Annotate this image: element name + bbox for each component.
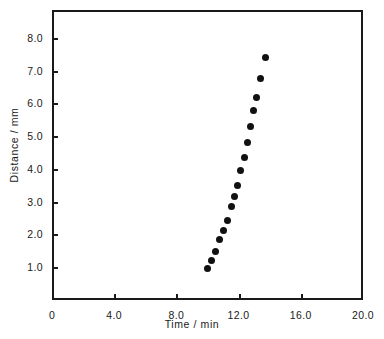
y-tick-label: 4.0 (27, 163, 43, 175)
data-point (216, 236, 223, 243)
y-axis-title: Distance / mm (2, 0, 26, 290)
y-tick-label: 7.0 (27, 65, 43, 77)
y-tick-mark (52, 169, 58, 171)
y-tick-mark (52, 103, 58, 105)
data-point (224, 217, 231, 224)
data-point (204, 265, 211, 272)
y-tick-mark (52, 202, 58, 204)
data-point (247, 123, 254, 130)
y-tick-label: 6.0 (27, 97, 43, 109)
data-point (234, 182, 241, 189)
y-tick-label: 8.0 (27, 32, 43, 44)
x-axis-title: Time / min (0, 318, 384, 330)
scatter-chart-figure: 1.02.03.04.05.06.07.08.0 04.08.012.016.0… (0, 0, 384, 339)
y-tick-label: 2.0 (27, 228, 43, 240)
data-point (220, 227, 227, 234)
x-tick-mark (301, 294, 303, 300)
data-point (244, 139, 251, 146)
y-tick-mark (52, 71, 58, 73)
y-tick-label: 1.0 (27, 261, 43, 273)
y-tick-mark (52, 267, 58, 269)
data-point (257, 75, 264, 82)
data-point (241, 154, 248, 161)
plot-area: 1.02.03.04.05.06.07.08.0 04.08.012.016.0… (52, 10, 363, 300)
y-tick-label: 3.0 (27, 196, 43, 208)
y-tick-mark (52, 234, 58, 236)
x-tick-mark (239, 294, 241, 300)
data-point (228, 203, 235, 210)
y-tick-mark (52, 38, 58, 40)
data-point (212, 248, 219, 255)
data-point (250, 107, 257, 114)
data-point (231, 193, 238, 200)
y-axis-title-text: Distance / mm (8, 108, 20, 183)
data-point (253, 94, 260, 101)
y-tick-label: 5.0 (27, 130, 43, 142)
data-point (262, 54, 269, 61)
y-tick-mark (52, 136, 58, 138)
data-point (237, 167, 244, 174)
data-point (208, 257, 215, 264)
x-tick-mark (114, 294, 116, 300)
x-tick-mark (176, 294, 178, 300)
